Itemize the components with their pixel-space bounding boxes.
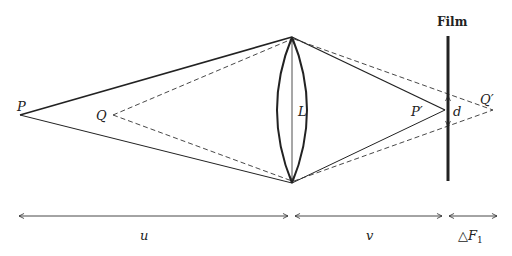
rays-from-p	[20, 37, 445, 183]
label-delta-f1: △F1	[458, 228, 483, 245]
label-delta-f1-sub: 1	[477, 235, 483, 245]
label-q-prime: Q′	[480, 92, 494, 107]
label-u: u	[140, 228, 148, 243]
optics-diagram: P Q L P′ Q′ d Film u v △F1	[0, 0, 512, 256]
label-p: P	[16, 99, 26, 114]
label-l: L	[297, 104, 307, 119]
label-p-prime: P′	[410, 104, 423, 119]
label-q: Q	[96, 108, 107, 123]
label-film: Film	[437, 15, 468, 29]
label-v: v	[366, 228, 374, 243]
label-d: d	[453, 104, 461, 119]
label-delta-f1-main: △F	[458, 228, 478, 243]
